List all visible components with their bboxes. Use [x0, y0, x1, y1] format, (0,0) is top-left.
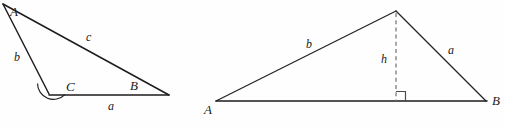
geometry-figure-container: A C B a b c A B b a: [0, 0, 505, 127]
left-triangle-side-label-c: c: [86, 30, 92, 44]
left-triangle-vertex-label-c: C: [66, 79, 75, 94]
right-triangle-vertex-label-a: A: [203, 102, 212, 117]
right-triangle-side-label-a: a: [448, 43, 454, 57]
right-triangle-group: A B b a h: [203, 11, 500, 117]
right-triangle-right-angle-marker: [396, 92, 406, 102]
right-triangle-side-a: [396, 11, 486, 101]
geometry-figure-canvas: A C B a b c A B b a: [0, 0, 505, 127]
right-triangle-side-b: [216, 11, 396, 101]
left-triangle-side-c: [3, 4, 169, 95]
left-triangle-angle-arc-c: [38, 84, 65, 100]
right-triangle-altitude-label-h: h: [381, 52, 387, 66]
right-triangle-side-label-b: b: [306, 37, 312, 51]
left-triangle-vertex-label-b: B: [130, 78, 138, 93]
left-triangle-side-label-b: b: [14, 50, 20, 64]
right-triangle-vertex-label-b: B: [492, 93, 500, 108]
left-triangle-side-label-a: a: [108, 99, 114, 113]
left-triangle-vertex-label-a: A: [9, 4, 18, 19]
left-triangle-group: A C B a b c: [3, 4, 169, 113]
